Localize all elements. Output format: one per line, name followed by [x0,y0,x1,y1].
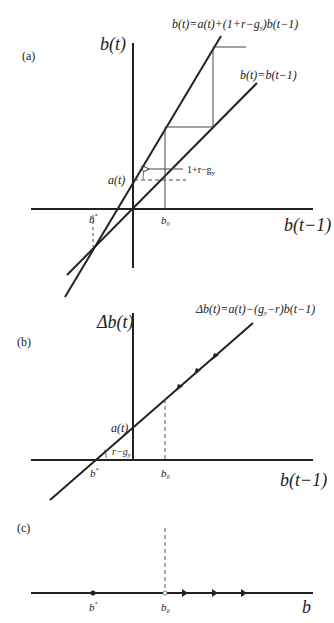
panel-c-b0-label: b0 [161,601,170,614]
panel-c: (c) b* b0 b [17,521,313,617]
panel-a-slope-label: 1+r−gy [187,164,216,177]
panel-a-diagonal-line [67,83,257,275]
panel-b-x-axis-label: b(t−1) [280,470,327,491]
panel-c-arrow-1 [182,589,188,597]
panel-a-y-axis-label: b(t) [100,34,126,55]
panel-b-intercept-label: a(t) [111,421,128,435]
panel-a: (a) b(t) b(t−1) 1+r−gy a(t) b* b0 b(t)=a… [22,17,331,297]
panel-c-axis-label: b [302,597,311,617]
panel-a-intercept-label: a(t) [108,173,125,187]
panel-b-line [50,323,253,500]
panel-c-arrow-2 [212,589,218,597]
panel-c-bstar-label: b* [89,601,98,613]
panel-b: (b) Δb(t) b(t−1) a(t) r−gy b* b0 Δb(t)=a… [17,302,327,500]
panel-c-label: (c) [17,521,30,535]
panel-b-equation: Δb(t)=a(t)−(gy−r)b(t−1) [195,302,315,317]
panel-b-label: (b) [17,335,31,349]
panel-c-bstar-point [91,591,96,596]
panel-a-bstar-label: b* [89,213,98,225]
debt-dynamics-figure: (a) b(t) b(t−1) 1+r−gy a(t) b* b0 b(t)=a… [0,0,334,623]
panel-a-steep-equation: b(t)=a(t)+(1+r−gy)b(t−1) [172,17,298,32]
panel-a-x-axis-label: b(t−1) [284,215,331,236]
panel-c-b0-point [163,591,167,595]
panel-c-arrow-3 [241,589,247,597]
panel-b-slope-label: r−gy [112,446,132,459]
panel-b-bstar-label: b* [90,467,99,479]
panel-b-b0-label: b0 [161,467,170,480]
panel-a-b0-label: b0 [161,214,170,227]
panel-a-diagonal-equation: b(t)=b(t−1) [240,68,297,82]
panel-a-label: (a) [22,49,35,63]
panel-b-y-axis-label: Δb(t) [96,312,134,333]
